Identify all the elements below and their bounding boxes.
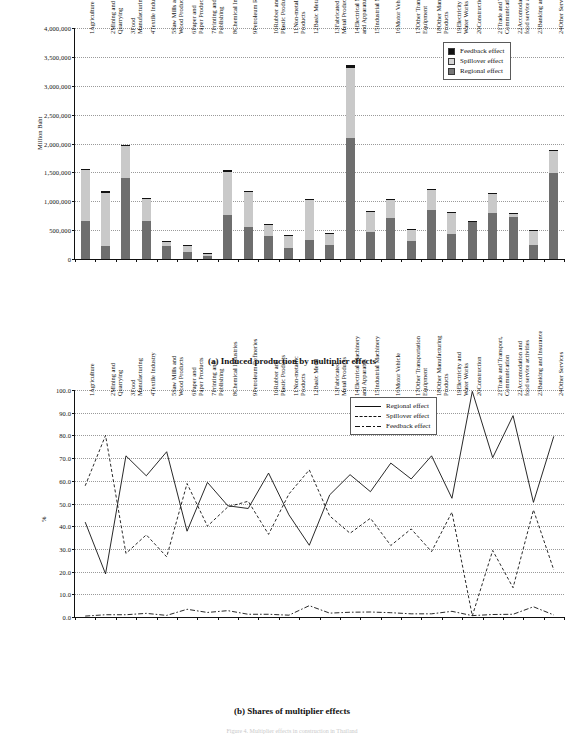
bar-segment-feedback[interactable] [447,212,456,213]
bar-segment-regional[interactable] [101,246,110,259]
bar-segment-feedback[interactable] [549,150,558,151]
bar-segment-regional[interactable] [284,248,293,259]
bar-segment-spillover[interactable] [509,213,518,217]
bar-segment-spillover[interactable] [162,242,171,247]
bar-segment-regional[interactable] [346,138,355,259]
bar-segment-feedback[interactable] [142,198,151,199]
bar-segment-regional[interactable] [549,173,558,259]
bar-segment-regional[interactable] [407,241,416,259]
bar-segment-regional[interactable] [203,256,212,259]
bar-stack[interactable] [447,212,456,259]
bar-segment-regional[interactable] [81,221,90,259]
bar-stack[interactable] [101,191,110,259]
bar-stack[interactable] [366,211,375,259]
bar-segment-spillover[interactable] [407,230,416,241]
bar-segment-feedback[interactable] [346,65,355,68]
bar-stack[interactable] [468,221,477,259]
x-axis-label: 12Basic Metal [312,359,319,396]
bar-segment-regional[interactable] [468,221,477,259]
bar-segment-regional[interactable] [488,213,497,259]
bar-segment-feedback[interactable] [386,199,395,200]
bar-stack[interactable] [183,245,192,259]
bar-segment-regional[interactable] [121,178,130,259]
bar-stack[interactable] [244,191,253,259]
bar-segment-spillover[interactable] [325,234,334,245]
bar-segment-feedback[interactable] [81,169,90,170]
bar-segment-regional[interactable] [325,245,334,259]
bar-stack[interactable] [305,199,314,259]
x-tick-mark [95,617,96,620]
panel-a-y-axis-label: Million Baht [36,117,43,150]
bar-segment-regional[interactable] [509,217,518,259]
bar-segment-spillover[interactable] [244,191,253,226]
line-series-layer [75,390,564,617]
bar-segment-regional[interactable] [366,232,375,259]
bar-stack[interactable] [386,199,395,259]
bar-segment-spillover[interactable] [264,224,273,236]
x-tick-mark [116,617,117,620]
bar-segment-spillover[interactable] [101,193,110,246]
bar-stack[interactable] [142,198,151,260]
bar-stack[interactable] [162,241,171,259]
bar-stack[interactable] [264,224,273,259]
bar-stack[interactable] [488,193,497,259]
bar-segment-feedback[interactable] [529,230,538,231]
y-tick-label: 3,500,000 [44,53,71,60]
x-axis-label: 16Motor Vehicle [394,353,401,396]
bar-segment-spillover[interactable] [366,212,375,233]
bar-segment-feedback[interactable] [427,189,436,190]
bar-segment-spillover[interactable] [81,169,90,221]
x-axis-label: 2Mining and Quarrying [109,363,123,396]
bar-segment-regional[interactable] [162,246,171,259]
bar-segment-regional[interactable] [142,221,151,259]
x-tick-mark [401,259,402,262]
bar-stack[interactable] [509,213,518,259]
bar-segment-spillover[interactable] [447,213,456,235]
bar-segment-regional[interactable] [183,252,192,259]
bar-stack[interactable] [529,230,538,259]
bar-segment-feedback[interactable] [101,191,110,192]
bar-stack[interactable] [549,150,558,259]
bar-stack[interactable] [325,233,334,259]
bar-segment-feedback[interactable] [366,211,375,212]
bar-segment-feedback[interactable] [305,199,314,200]
bar-stack[interactable] [121,145,130,259]
y-tick-mark [72,28,75,29]
bar-segment-regional[interactable] [223,215,232,259]
bar-segment-spillover[interactable] [346,68,355,138]
bar-segment-regional[interactable] [264,236,273,259]
x-tick-mark [258,259,259,262]
bar-segment-spillover[interactable] [386,199,395,218]
bar-segment-spillover[interactable] [549,151,558,174]
y-tick-label: 40.0 [59,523,71,530]
bar-segment-spillover[interactable] [223,172,232,216]
bar-segment-spillover[interactable] [203,253,212,256]
line-dashdot [85,606,554,616]
bar-stack[interactable] [203,253,212,259]
bar-segment-spillover[interactable] [183,246,192,252]
bar-segment-spillover[interactable] [427,190,436,210]
bar-segment-spillover[interactable] [121,146,130,178]
y-tick-label: 2,500,000 [44,111,71,118]
bar-segment-regional[interactable] [529,245,538,259]
bar-stack[interactable] [223,170,232,259]
bar-stack[interactable] [407,229,416,259]
bar-stack[interactable] [427,189,436,259]
bar-segment-spillover[interactable] [305,200,314,240]
bar-segment-spillover[interactable] [529,230,538,245]
bar-segment-regional[interactable] [427,210,436,259]
bar-stack[interactable] [346,65,355,259]
bar-segment-spillover[interactable] [142,198,151,221]
bar-segment-feedback[interactable] [121,145,130,146]
bar-segment-spillover[interactable] [488,194,497,213]
bar-segment-feedback[interactable] [223,170,232,171]
bar-segment-regional[interactable] [447,234,456,259]
bar-segment-regional[interactable] [305,240,314,259]
bar-segment-regional[interactable] [386,218,395,259]
bar-stack[interactable] [284,235,293,259]
bar-stack[interactable] [81,169,90,259]
bar-segment-spillover[interactable] [284,236,293,248]
bar-segment-regional[interactable] [244,227,253,259]
x-tick-mark [381,617,382,620]
bar-segment-feedback[interactable] [488,193,497,194]
